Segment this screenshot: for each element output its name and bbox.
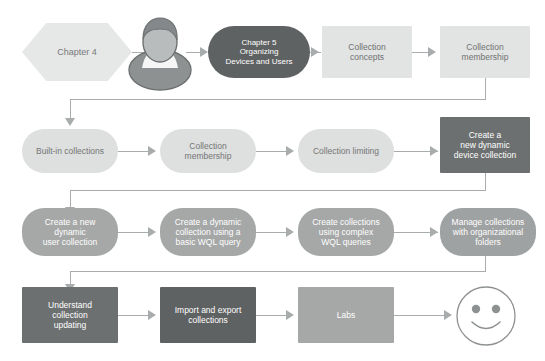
node-import-and-export-collections[interactable]: Import and export collections <box>160 287 256 343</box>
node-create-dynamic-collection-basic-wql-label: Create a dynamic collection using a basi… <box>175 217 242 247</box>
connector-row2-entry-drop <box>70 99 71 119</box>
node-understand-collection-updating-label: Understand collection updating <box>48 300 92 330</box>
node-collection-concepts[interactable]: Collection concepts <box>322 26 412 78</box>
node-built-in-collections[interactable]: Built-in collections <box>22 129 118 173</box>
node-create-new-dynamic-device-collection-label: Create a new dynamic device collection <box>454 130 516 160</box>
arrowhead-person-to-chapter5 <box>200 47 208 57</box>
connector-row3-entry-drop <box>70 190 71 208</box>
arrowhead-complex-wql-to-folders <box>430 227 438 237</box>
node-collection-membership-2[interactable]: Collection membership <box>160 129 256 173</box>
connector-row3-drop <box>485 256 486 272</box>
person-avatar-icon <box>124 12 196 90</box>
node-manage-collections-organizational-folders-label: Manage collections with organizational f… <box>452 217 525 247</box>
node-create-dynamic-collection-basic-wql[interactable]: Create a dynamic collection using a basi… <box>160 208 256 256</box>
arrowhead-chapter5-to-concepts <box>311 47 319 57</box>
arrowhead-user-collection-to-basic-wql <box>148 227 156 237</box>
arrowhead-membership2-to-limiting <box>286 146 294 156</box>
node-import-and-export-collections-label: Import and export collections <box>175 305 242 325</box>
node-labs-label: Labs <box>337 310 355 320</box>
smiley-face-icon <box>455 285 517 347</box>
arrowhead-labs-to-smiley <box>444 310 452 320</box>
arrowhead-row1-to-row2 <box>65 118 75 126</box>
flowchart-canvas: Chapter 4 Chapter 5 Organizing Devices a… <box>0 0 545 361</box>
node-labs[interactable]: Labs <box>298 287 394 343</box>
node-chapter-5-label: Chapter 5 Organizing Devices and Users <box>225 38 292 66</box>
node-chapter-4-label: Chapter 4 <box>57 47 97 57</box>
arrowhead-builtin-to-membership2 <box>148 146 156 156</box>
connector-row2-to-row3-horizontal <box>70 190 486 191</box>
arrowhead-limiting-to-device-collection <box>430 146 438 156</box>
arrowhead-updating-to-import-export <box>148 310 156 320</box>
node-collection-membership-1[interactable]: Collection membership <box>440 26 530 78</box>
node-chapter-5[interactable]: Chapter 5 Organizing Devices and Users <box>208 26 310 78</box>
arrowhead-basic-wql-to-complex-wql <box>286 227 294 237</box>
connector-row1-to-row2-horizontal <box>70 99 486 100</box>
node-collection-limiting-label: Collection limiting <box>313 146 379 156</box>
node-create-new-dynamic-user-collection-label: Create a new dynamic user collection <box>43 217 97 247</box>
connector-row1-drop <box>485 78 486 100</box>
node-collection-membership-1-label: Collection membership <box>462 42 509 62</box>
node-chapter-4[interactable]: Chapter 4 <box>22 23 132 81</box>
node-create-collections-complex-wql[interactable]: Create collections using complex WQL que… <box>298 208 394 256</box>
connector-labs-to-smiley <box>394 315 450 316</box>
node-built-in-collections-label: Built-in collections <box>36 146 104 156</box>
arrowhead-concepts-to-membership <box>428 47 436 57</box>
node-create-new-dynamic-user-collection[interactable]: Create a new dynamic user collection <box>22 208 118 256</box>
node-understand-collection-updating[interactable]: Understand collection updating <box>22 287 118 343</box>
connector-row2-drop <box>485 173 486 191</box>
node-collection-concepts-label: Collection concepts <box>348 42 385 62</box>
node-manage-collections-organizational-folders[interactable]: Manage collections with organizational f… <box>440 208 536 256</box>
node-create-new-dynamic-device-collection[interactable]: Create a new dynamic device collection <box>440 117 530 173</box>
node-collection-limiting[interactable]: Collection limiting <box>298 129 394 173</box>
connector-person-to-chapter5 <box>186 52 200 53</box>
connector-row3-to-row4-horizontal <box>70 271 486 272</box>
node-collection-membership-2-label: Collection membership <box>185 141 232 161</box>
node-create-collections-complex-wql-label: Create collections using complex WQL que… <box>312 217 380 247</box>
arrowhead-import-export-to-labs <box>286 310 294 320</box>
